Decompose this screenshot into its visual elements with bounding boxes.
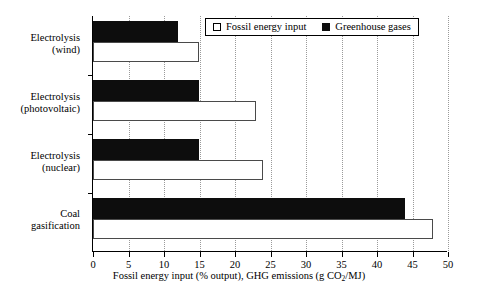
x-axis-tick-25 [271,252,272,257]
category-label-line1: Electrolysis [30,91,80,102]
x-axis-tick-15 [200,252,201,257]
category-label-electrolysis-wind: Electrolysis (wind) [0,32,80,56]
plot-area: 0 5 10 15 20 25 30 35 40 45 50 [92,16,447,252]
y-axis-tick [88,193,93,194]
bar-fossil-electrolysis-nuclear[interactable] [93,160,263,180]
category-label-line2: (wind) [0,44,80,56]
x-axis-tick-10 [164,252,165,257]
category-axis-labels: Electrolysis (wind) Electrolysis (photov… [0,16,86,252]
legend-label-fossil: Fossil energy input [226,21,306,33]
y-axis-tick [88,134,93,135]
y-axis-tick [88,75,93,76]
x-axis-tick-45 [413,252,414,257]
x-axis-tick-30 [306,252,307,257]
category-label-line1: Coal [60,208,80,219]
legend-label-ghg: Greenhouse gases [335,21,411,33]
bar-fossil-electrolysis-photovoltaic[interactable] [93,101,256,121]
filled-square-icon [322,23,330,31]
category-label-line2: (nuclear) [0,162,80,174]
gridline-45 [413,16,414,251]
bar-fossil-electrolysis-wind[interactable] [93,42,199,62]
x-axis-tick-50 [448,252,449,257]
chart-legend: Fossil energy input Greenhouse gases [205,18,419,36]
legend-item-fossil-energy-input[interactable]: Fossil energy input [213,21,306,33]
x-axis-tick-20 [235,252,236,257]
category-label-line1: Electrolysis [30,32,80,43]
category-label-electrolysis-photovoltaic: Electrolysis (photovoltaic) [0,91,80,115]
x-axis-tick-0 [93,252,94,257]
bar-ghg-coal-gasification[interactable] [93,198,405,219]
x-axis-title-tail: /MJ) [345,270,365,281]
bar-fossil-coal-gasification[interactable] [93,219,433,239]
x-axis-title: Fossil energy input (% output), GHG emis… [0,269,478,285]
legend-item-greenhouse-gases[interactable]: Greenhouse gases [322,21,411,33]
bar-ghg-electrolysis-photovoltaic[interactable] [93,80,199,101]
bar-chart: Electrolysis (wind) Electrolysis (photov… [0,0,478,295]
category-label-line1: Electrolysis [30,150,80,161]
x-axis-title-main: Fossil energy input (% output), GHG emis… [113,270,342,281]
category-label-coal-gasification: Coal gasification [0,208,80,232]
category-label-line2: gasification [0,220,80,232]
category-label-line2: (photovoltaic) [0,103,80,115]
x-axis-tick-5 [129,252,130,257]
gridline-50 [448,16,449,251]
x-axis-tick-40 [377,252,378,257]
bar-ghg-electrolysis-wind[interactable] [93,21,178,42]
category-label-electrolysis-nuclear: Electrolysis (nuclear) [0,150,80,174]
open-square-icon [213,23,221,31]
bar-ghg-electrolysis-nuclear[interactable] [93,139,199,160]
x-axis-tick-35 [342,252,343,257]
